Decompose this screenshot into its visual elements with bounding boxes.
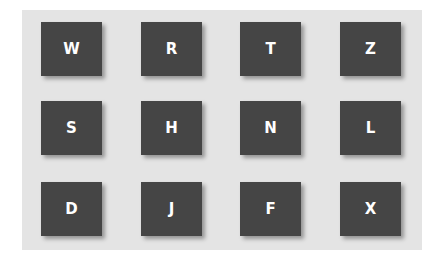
letter-tile[interactable]: W — [41, 22, 102, 76]
letter-tile[interactable]: D — [41, 182, 102, 236]
letter-grid-panel: W R T Z S H N L D J F X — [22, 10, 422, 250]
letter-tile[interactable]: T — [240, 22, 301, 76]
letter-tile[interactable]: R — [141, 22, 202, 76]
letter-tile[interactable]: Z — [340, 22, 401, 76]
letter-tile[interactable]: L — [340, 101, 401, 155]
letter-tile[interactable]: S — [41, 101, 102, 155]
letter-tile[interactable]: J — [141, 182, 202, 236]
letter-tile[interactable]: N — [240, 101, 301, 155]
letter-tile[interactable]: H — [141, 101, 202, 155]
letter-tile[interactable]: F — [240, 182, 301, 236]
letter-tile[interactable]: X — [340, 182, 401, 236]
